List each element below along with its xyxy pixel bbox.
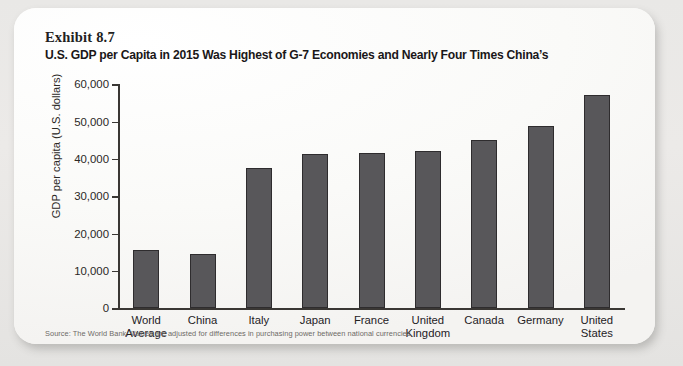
bar-series: [118, 84, 625, 308]
bar: [246, 168, 272, 308]
bar: [302, 154, 328, 309]
bar: [359, 153, 385, 308]
y-axis-tick-label: 50,000: [74, 116, 109, 128]
bar: [190, 254, 216, 309]
y-axis-label: GDP per capita (U.S. dollars): [50, 46, 62, 246]
exhibit-card-surface: Exhibit 8.7 U.S. GDP per Capita in 2015 …: [14, 8, 655, 344]
bar: [471, 140, 497, 308]
y-axis-tick-label: 60,000: [74, 78, 109, 90]
y-axis-tick-mark: [112, 308, 118, 309]
exhibit-card: Exhibit 8.7 U.S. GDP per Capita in 2015 …: [14, 8, 655, 344]
y-axis-tick-label: 40,000: [74, 153, 109, 165]
bar: [133, 250, 159, 309]
y-axis-tick-label: 0: [103, 302, 109, 314]
x-axis-label-line: States: [559, 327, 635, 340]
x-axis-label: UnitedStates: [559, 314, 635, 340]
source-note: Source: The World Bank. Values are adjus…: [45, 329, 413, 338]
y-axis-tick-label: 20,000: [74, 228, 109, 240]
x-axis-label-line: United: [559, 314, 635, 327]
bar: [415, 151, 441, 309]
page-root: Exhibit 8.7 U.S. GDP per Capita in 2015 …: [0, 0, 683, 366]
bar: [584, 95, 610, 309]
y-axis-tick-label: 10,000: [74, 265, 109, 277]
x-axis-line: [118, 308, 625, 310]
bar: [528, 126, 554, 309]
y-axis-tick-label: 30,000: [74, 190, 109, 202]
plot-area: 010,00020,00030,00040,00050,00060,000: [118, 84, 625, 310]
bar-chart: GDP per capita (U.S. dollars) 010,00020,…: [14, 8, 655, 344]
